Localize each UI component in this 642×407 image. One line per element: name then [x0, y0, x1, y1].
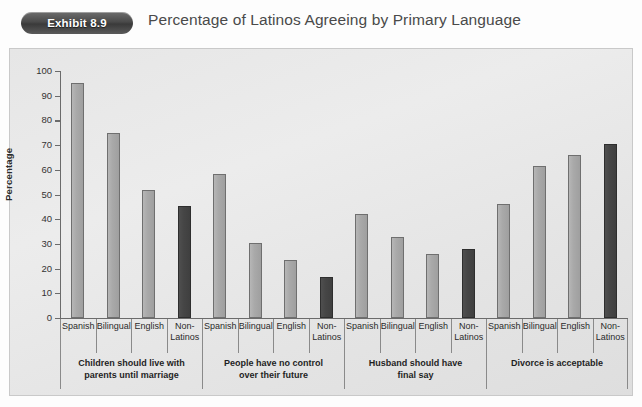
bar [533, 166, 546, 318]
category-label-cell: English [273, 319, 309, 353]
category-label-cell: Spanish [202, 319, 238, 353]
y-tick-label: 90 [28, 91, 52, 101]
exhibit-badge: Exhibit 8.9 [21, 12, 133, 34]
bar [462, 249, 475, 318]
category-label-band: SpanishBilingualEnglishNon-LatinosSpanis… [60, 319, 628, 353]
y-tick-label: 10 [28, 288, 52, 298]
category-label: Bilingual [381, 321, 416, 332]
page-title: Percentage of Latinos Agreeing by Primar… [148, 11, 521, 29]
category-label: English [416, 321, 451, 332]
group-label: Children should live withparents until m… [61, 357, 202, 381]
y-tick-label: 20 [28, 264, 52, 274]
category-label-cell: Spanish [60, 319, 96, 353]
category-label-cell: English [557, 319, 593, 353]
y-axis-title: Percentage [3, 148, 14, 201]
group-label-cell: Children should live withparents until m… [60, 353, 202, 389]
bar [355, 214, 368, 318]
category-label-cell: English [415, 319, 451, 353]
plot-area: Percentage 0102030405060708090100 Spanis… [10, 49, 634, 397]
category-label: English [558, 321, 593, 332]
bars-layer [60, 71, 628, 318]
category-label-cell: Non-Latinos [451, 319, 487, 353]
bar [284, 260, 297, 318]
bar [142, 190, 155, 318]
category-label-cell: Bilingual [522, 319, 558, 353]
y-tick-label: 100 [28, 66, 52, 76]
group-label-cell: Husband should havefinal say [344, 353, 486, 389]
bar [249, 243, 262, 318]
exhibit-badge-label: Exhibit 8.9 [47, 17, 107, 29]
category-label: Non-Latinos [594, 321, 628, 343]
y-tick-label: 40 [28, 214, 52, 224]
y-tick-label: 70 [28, 140, 52, 150]
y-tick-label: 60 [28, 165, 52, 175]
group-label: Divorce is acceptable [487, 357, 627, 369]
chart-header: Exhibit 8.9 Percentage of Latinos Agreei… [0, 8, 642, 44]
y-tick-label: 50 [28, 190, 52, 200]
category-label: Non-Latinos [452, 321, 487, 343]
category-label: Spanish [61, 321, 96, 332]
category-label: Bilingual [97, 321, 132, 332]
group-label-cell: Divorce is acceptable [486, 353, 628, 389]
category-label-cell: Bilingual [238, 319, 274, 353]
category-label: Non-Latinos [310, 321, 345, 343]
category-label-cell: Spanish [486, 319, 522, 353]
group-label: People have no controlover their future [203, 357, 344, 381]
y-tick-label: 0 [28, 313, 52, 323]
group-label-cell: People have no controlover their future [202, 353, 344, 389]
category-label-cell: Non-Latinos [593, 319, 629, 353]
y-tick-label: 30 [28, 239, 52, 249]
chart-frame: Percentage 0102030405060708090100 Spanis… [9, 48, 633, 396]
group-label-band: Children should live withparents until m… [60, 353, 628, 393]
category-label: Bilingual [523, 321, 558, 332]
y-tick-label: 80 [28, 115, 52, 125]
group-label: Husband should havefinal say [345, 357, 486, 381]
bar [213, 174, 226, 318]
category-label: Non-Latinos [168, 321, 203, 343]
category-label: Bilingual [239, 321, 274, 332]
category-label-cell: Bilingual [380, 319, 416, 353]
bar [391, 237, 404, 319]
category-label-cell: Non-Latinos [167, 319, 203, 353]
bar [320, 277, 333, 318]
bar [178, 206, 191, 318]
category-label-cell: Non-Latinos [309, 319, 345, 353]
bar [71, 83, 84, 318]
category-label: Spanish [203, 321, 238, 332]
bar [568, 155, 581, 318]
category-label: Spanish [345, 321, 380, 332]
category-label-cell: Spanish [344, 319, 380, 353]
category-label: English [132, 321, 167, 332]
bar [604, 144, 617, 318]
bar [107, 133, 120, 318]
category-label-cell: Bilingual [96, 319, 132, 353]
bar [426, 254, 439, 318]
category-label: English [274, 321, 309, 332]
category-label-cell: English [131, 319, 167, 353]
bar [497, 204, 510, 318]
chart-page: Exhibit 8.9 Percentage of Latinos Agreei… [0, 0, 642, 407]
category-label: Spanish [487, 321, 522, 332]
